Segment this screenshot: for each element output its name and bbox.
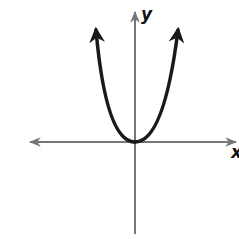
parabola-left-arm [96,30,135,142]
parabola-right-arm [135,30,178,142]
parabola-graph [0,0,239,239]
y-axis-label: y [141,6,152,23]
x-axis-label: x [231,144,239,161]
